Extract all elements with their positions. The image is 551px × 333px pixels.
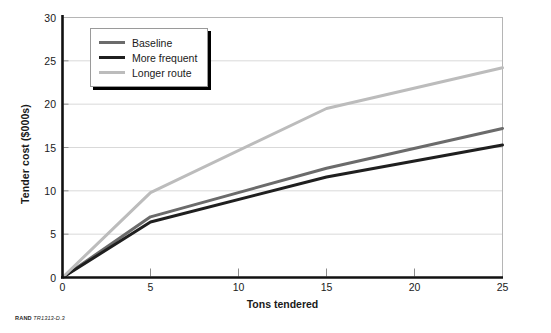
figure-credit: RAND TR1313-D.3 bbox=[15, 315, 65, 321]
legend-item-label: Longer route bbox=[132, 67, 192, 79]
y-tick-marks bbox=[64, 18, 69, 278]
x-tick-label-5: 5 bbox=[131, 281, 171, 293]
legend-item-more-frequent: More frequent bbox=[99, 50, 197, 65]
credit-organization: RAND bbox=[15, 315, 32, 321]
legend-item-label: Baseline bbox=[132, 37, 172, 49]
series-line-longer-route bbox=[63, 68, 503, 278]
chart-figure: Tender cost ($000s) 051015202530 0510152… bbox=[0, 0, 551, 333]
x-axis-tick-labels: 0510152025 bbox=[0, 281, 551, 297]
legend-swatch-icon bbox=[99, 41, 125, 44]
chart-legend: BaselineMore frequentLonger route bbox=[90, 28, 208, 87]
credit-report-id: TR1313-D.3 bbox=[33, 315, 64, 321]
x-tick-marks bbox=[151, 269, 415, 277]
x-tick-label-15: 15 bbox=[307, 281, 347, 293]
x-tick-label-25: 25 bbox=[483, 281, 523, 293]
legend-item-longer-route: Longer route bbox=[99, 65, 197, 80]
x-axis-title: Tons tendered bbox=[62, 298, 503, 310]
legend-item-baseline: Baseline bbox=[99, 35, 197, 50]
legend-item-label: More frequent bbox=[132, 52, 197, 64]
x-tick-label-20: 20 bbox=[395, 281, 435, 293]
data-series-lines bbox=[63, 68, 503, 278]
legend-swatch-icon bbox=[99, 56, 125, 59]
x-tick-label-0: 0 bbox=[43, 281, 83, 293]
legend-swatch-icon bbox=[99, 71, 125, 74]
x-tick-label-10: 10 bbox=[219, 281, 259, 293]
series-line-baseline bbox=[63, 128, 503, 277]
series-line-more-frequent bbox=[63, 145, 503, 278]
